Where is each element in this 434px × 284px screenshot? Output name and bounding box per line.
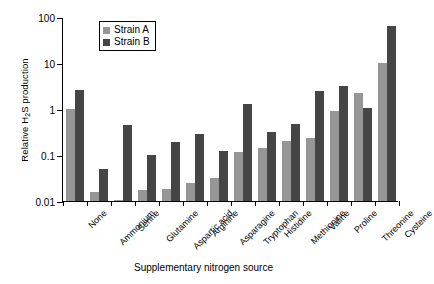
x-axis-category-label: Proline: [352, 208, 379, 235]
legend: Strain A Strain B: [99, 21, 156, 51]
bar-group: [255, 18, 279, 201]
x-axis-tick: [231, 201, 232, 206]
bar-group: [351, 18, 375, 201]
x-axis-tick: [255, 201, 256, 206]
x-axis-tick: [351, 201, 352, 206]
x-axis-category-label: None: [86, 208, 108, 230]
legend-label-strain-a: Strain A: [114, 24, 149, 36]
bar-group: [159, 18, 183, 201]
y-axis-tick-label: 0.1: [41, 151, 55, 162]
bar-strain-a: [138, 190, 147, 201]
x-axis-tick: [183, 201, 184, 206]
bar-strain-b: [171, 142, 180, 201]
legend-item-strain-a: Strain A: [103, 24, 150, 36]
bar-strain-b: [363, 108, 372, 201]
bar-strain-b: [315, 91, 324, 201]
bar-group: [303, 18, 327, 201]
bar-group: [207, 18, 231, 201]
bar-strain-b: [219, 151, 228, 201]
bar-strain-a: [210, 178, 219, 201]
x-axis-tick: [375, 201, 376, 206]
bar-strain-a: [186, 183, 195, 201]
x-axis-tick: [279, 201, 280, 206]
y-axis-tick-label: 100: [38, 13, 55, 24]
y-axis-tick-label: 0.01: [36, 197, 55, 208]
bar-group: [375, 18, 399, 201]
bar-strain-a: [354, 93, 363, 201]
x-axis-tick: [159, 201, 160, 206]
bar-strain-a: [258, 148, 267, 201]
bar-strain-a: [114, 200, 123, 201]
legend-label-strain-b: Strain B: [114, 36, 150, 48]
bar-strain-a: [378, 63, 387, 201]
x-axis-category-label: Valine: [327, 208, 351, 232]
bar-group: [63, 18, 87, 201]
y-axis-tick-label: 10: [44, 59, 55, 70]
x-axis-tick: [111, 201, 112, 206]
bar-group: [183, 18, 207, 201]
x-axis-tick: [87, 201, 88, 206]
y-axis-title-sub: 2: [24, 113, 31, 117]
bar-strain-a: [66, 109, 75, 201]
y-axis-title-pre: Relative H: [19, 117, 30, 162]
bar-strain-b: [75, 90, 84, 201]
bar-strain-a: [306, 138, 315, 201]
bar-strain-a: [330, 111, 339, 201]
x-axis-category-label: Glutamine: [164, 208, 200, 244]
x-axis-tick: [399, 201, 400, 206]
x-axis-tick: [63, 201, 64, 206]
bar-strain-b: [267, 132, 276, 201]
x-axis-category-label: Serine: [136, 208, 161, 233]
bar-strain-b: [99, 169, 108, 201]
bar-strain-b: [387, 26, 396, 201]
bar-strain-a: [90, 192, 99, 201]
x-axis-tick: [327, 201, 328, 206]
bar-group: [231, 18, 255, 201]
bar-strain-a: [282, 141, 291, 201]
y-axis-title: Relative H2S production: [19, 25, 31, 195]
bar-strain-b: [147, 155, 156, 201]
y-axis-tick-label: 1: [49, 105, 55, 116]
legend-item-strain-b: Strain B: [103, 36, 150, 48]
bar-strain-b: [243, 104, 252, 201]
bar-group: [327, 18, 351, 201]
legend-swatch-icon-strain-b: [103, 39, 110, 46]
x-axis-title: Supplementary nitrogen source: [0, 262, 407, 273]
bar-strain-b: [123, 125, 132, 201]
x-axis-tick: [207, 201, 208, 206]
y-axis-title-post: S production: [19, 58, 30, 113]
x-axis-tick: [303, 201, 304, 206]
x-axis-tick: [135, 201, 136, 206]
bar-strain-b: [339, 86, 348, 201]
bar-strain-a: [162, 189, 171, 201]
bar-group: [279, 18, 303, 201]
bar-strain-b: [195, 134, 204, 201]
bar-strain-b: [291, 124, 300, 201]
bar-strain-a: [234, 152, 243, 201]
legend-swatch-icon-strain-a: [103, 27, 110, 34]
